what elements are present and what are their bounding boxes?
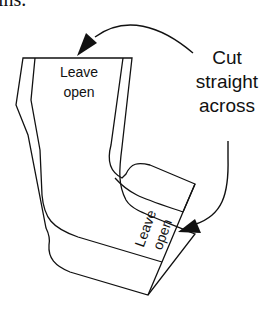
top-arrow-curve — [95, 25, 193, 53]
boot-outer-outline — [16, 58, 195, 295]
top-opening-label-line-1: Leave — [60, 64, 98, 80]
callout-line-2: straight — [196, 71, 259, 92]
partial-caption: ins. — [0, 0, 26, 10]
top-opening-label-line-2: open — [63, 84, 94, 100]
bottom-arrowhead-icon — [178, 219, 201, 233]
bottom-arrow-curve — [196, 141, 228, 224]
boot-cutting-diagram: ins. Cut straight across Leave open Leav… — [0, 0, 276, 313]
top-arrowhead-icon — [77, 33, 97, 56]
callout-line-1: Cut — [212, 47, 242, 68]
callout-line-3: across — [199, 95, 255, 116]
